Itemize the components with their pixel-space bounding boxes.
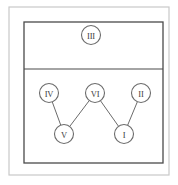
edges-group bbox=[52, 101, 137, 127]
node-v[interactable]: V bbox=[55, 125, 74, 144]
node-iv[interactable]: IV bbox=[40, 84, 59, 103]
node-label-iv: IV bbox=[45, 89, 55, 99]
node-iii[interactable]: III bbox=[82, 26, 101, 45]
node-ii[interactable]: II bbox=[132, 84, 151, 103]
node-vi[interactable]: VI bbox=[86, 84, 105, 103]
node-label-vi: VI bbox=[91, 89, 100, 99]
diagram-svg: IIIIVVIIIVI bbox=[0, 0, 178, 185]
node-label-i: I bbox=[123, 130, 126, 140]
edge-VI-V bbox=[70, 101, 90, 127]
node-i[interactable]: I bbox=[115, 125, 134, 144]
edge-II-I bbox=[128, 102, 138, 125]
node-label-ii: II bbox=[138, 89, 144, 99]
nodes-group: IIIIVVIIIVI bbox=[40, 26, 151, 144]
edge-IV-V bbox=[52, 102, 60, 125]
node-label-iii: III bbox=[87, 31, 95, 41]
node-label-v: V bbox=[61, 130, 68, 140]
diagram-canvas: IIIIVVIIIVI bbox=[0, 0, 178, 185]
edge-VI-I bbox=[100, 101, 118, 126]
